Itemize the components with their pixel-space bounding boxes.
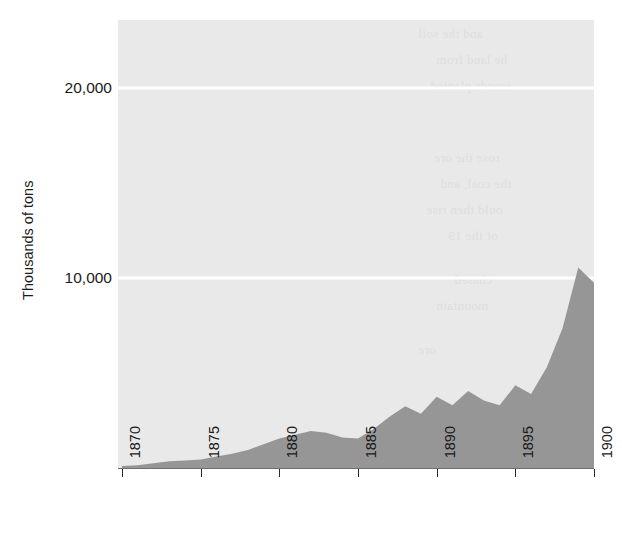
x-tick-label-1895: 1895	[521, 426, 536, 482]
y-tick-label-20000: 20,000	[0, 80, 112, 96]
plot-svg	[118, 20, 594, 468]
x-tick-label-1885: 1885	[364, 426, 379, 482]
x-tick-mark-1875	[201, 469, 202, 477]
y-axis-title: Thousands of tons	[21, 160, 36, 320]
x-tick-label-1875: 1875	[207, 426, 222, 482]
x-tick-mark-1900	[594, 469, 595, 477]
gridlines	[118, 88, 594, 278]
plot-area: and the soil he land from woods planted …	[118, 20, 594, 468]
x-tick-mark-1890	[437, 469, 438, 477]
x-tick-label-1880: 1880	[285, 426, 300, 482]
x-tick-label-1900: 1900	[600, 426, 615, 482]
x-tick-mark-1895	[515, 469, 516, 477]
y-tick-label-10000: 10,000	[0, 270, 112, 286]
area-chart-figure: and the soil he land from woods planted …	[0, 0, 622, 536]
x-tick-label-1870: 1870	[128, 426, 143, 482]
x-tick-label-1890: 1890	[443, 426, 458, 482]
x-tick-mark-1870	[122, 469, 123, 477]
x-tick-mark-1880	[279, 469, 280, 477]
x-tick-mark-1885	[358, 469, 359, 477]
